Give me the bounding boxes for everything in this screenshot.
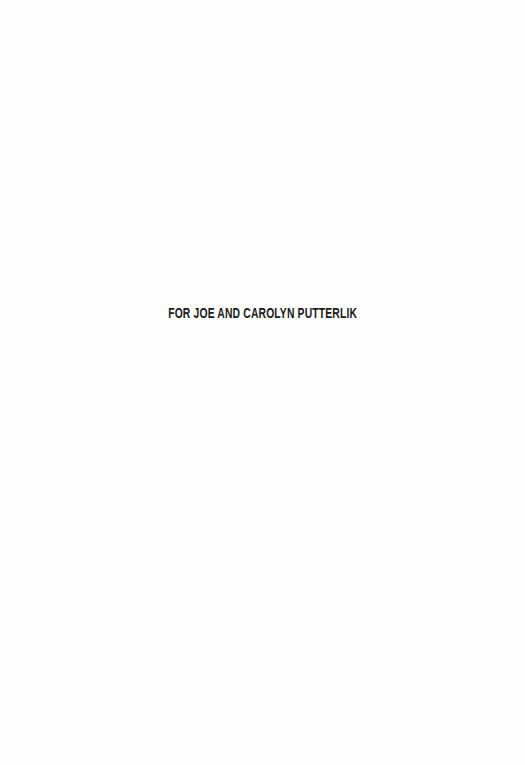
dedication-block: FOR JOE AND CAROLYN PUTTERLIK	[0, 304, 525, 322]
book-page: FOR JOE AND CAROLYN PUTTERLIK	[0, 0, 525, 765]
dedication-text: FOR JOE AND CAROLYN PUTTERLIK	[168, 304, 357, 322]
